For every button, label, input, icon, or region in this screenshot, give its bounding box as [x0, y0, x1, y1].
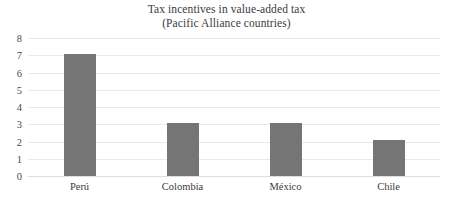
- y-axis-tick-label: 0: [0, 171, 22, 182]
- chart-title: Tax incentives in value-added tax (Pacif…: [0, 3, 453, 30]
- y-axis-tick-label: 6: [0, 67, 22, 78]
- x-axis-category-label: México: [269, 181, 301, 192]
- bar-chart-figure: Tax incentives in value-added tax (Pacif…: [0, 0, 453, 207]
- gridline-y-8: [28, 38, 440, 39]
- bar-chile: [373, 140, 405, 176]
- y-axis-tick-label: 3: [0, 119, 22, 130]
- x-axis-category-label: Chile: [377, 181, 400, 192]
- plot-area: [28, 38, 440, 176]
- x-axis-category-label: Colombia: [162, 181, 203, 192]
- y-axis-tick-label: 5: [0, 84, 22, 95]
- bar-colombia: [167, 123, 199, 176]
- x-axis-category-label: Perú: [70, 181, 89, 192]
- gridline-y-0: [28, 176, 440, 177]
- y-axis-tick-label: 2: [0, 136, 22, 147]
- y-axis-tick-label: 1: [0, 153, 22, 164]
- bar-méxico: [270, 123, 302, 176]
- y-axis-tick-label: 8: [0, 33, 22, 44]
- y-axis-tick-label: 4: [0, 102, 22, 113]
- chart-title-line-2: (Pacific Alliance countries): [0, 17, 453, 31]
- chart-title-line-1: Tax incentives in value-added tax: [0, 3, 453, 17]
- bar-perú: [64, 54, 96, 176]
- y-axis-tick-label: 7: [0, 50, 22, 61]
